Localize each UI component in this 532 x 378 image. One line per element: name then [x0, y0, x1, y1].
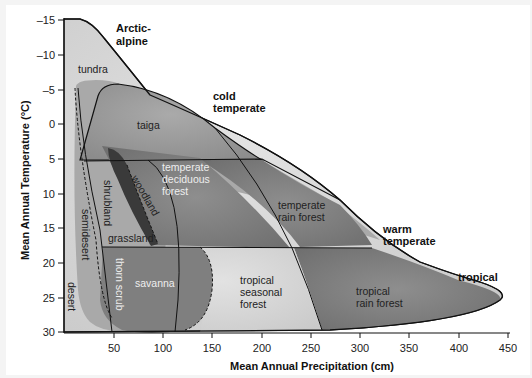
label-savanna: savanna	[135, 277, 175, 289]
label-thorn-scrub: thorn scrub	[114, 258, 126, 311]
ytick: 5	[49, 153, 55, 165]
label-warm: warm	[382, 223, 412, 235]
label-arctic: alpine	[116, 35, 148, 47]
label-cold: cold	[213, 90, 236, 102]
tropical-rain-forest-region	[294, 248, 500, 330]
label-taiga: taiga	[137, 119, 160, 131]
x-axis-label: Mean Annual Precipitation (cm)	[230, 360, 394, 372]
label-trop-rf: rain forest	[356, 297, 403, 309]
label-tdf: deciduous	[162, 173, 210, 185]
label-tsf: forest	[240, 298, 266, 310]
ytick: 10	[43, 188, 55, 200]
label-warm: temperate	[383, 235, 436, 247]
ytick: 25	[43, 292, 55, 304]
biome-diagram: –15 –10 –5 0 5 10 15 20 25 30 50 100 150…	[0, 0, 532, 378]
label-tundra: tundra	[78, 63, 108, 75]
label-grassland: grassland	[108, 232, 154, 244]
y-ticks	[58, 20, 64, 332]
xtick: 400	[450, 342, 468, 354]
xtick: 300	[351, 342, 369, 354]
label-tdf: temperate	[162, 161, 209, 173]
label-trf: temperate	[278, 199, 325, 211]
ytick: 0	[49, 118, 55, 130]
xtick: 200	[253, 342, 271, 354]
label-trf: rain forest	[278, 211, 325, 223]
ytick: –5	[43, 84, 55, 96]
label-tsf: seasonal	[240, 286, 282, 298]
xtick: 350	[400, 342, 418, 354]
y-axis-label: Mean Annual Temperature (°C)	[19, 100, 31, 260]
label-cold: temperate	[213, 102, 266, 114]
xtick: 250	[302, 342, 320, 354]
label-tdf: forest	[162, 185, 188, 197]
label-arctic: Arctic-	[116, 22, 151, 34]
label-tsf: tropical	[240, 274, 274, 286]
xtick: 150	[203, 342, 221, 354]
xtick: 100	[154, 342, 172, 354]
x-ticks	[114, 333, 508, 338]
label-tropical: tropical	[458, 271, 498, 283]
xtick: 50	[108, 342, 120, 354]
ytick: 20	[43, 257, 55, 269]
ytick: –15	[37, 14, 55, 26]
ytick: –10	[37, 49, 55, 61]
label-shrubland: shrubland	[102, 180, 114, 226]
ytick: 15	[43, 222, 55, 234]
label-semidesert: semidesert	[80, 209, 92, 260]
xtick: 450	[499, 342, 517, 354]
ytick: 30	[43, 326, 55, 338]
label-desert: desert	[66, 282, 78, 311]
label-trop-rf: tropical	[356, 285, 390, 297]
